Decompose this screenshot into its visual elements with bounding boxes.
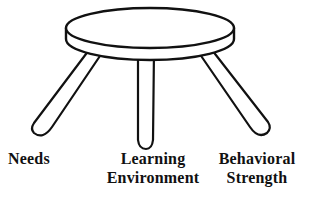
diagram-canvas: Needs Learning Environment Behavioral St… bbox=[0, 0, 325, 204]
stool-illustration bbox=[0, 0, 325, 204]
seat-top-ellipse bbox=[66, 8, 234, 48]
left-leg bbox=[32, 50, 104, 135]
right-leg bbox=[197, 50, 270, 135]
center-leg bbox=[138, 50, 154, 149]
